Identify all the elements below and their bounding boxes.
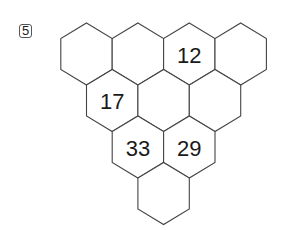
cell-value: 12 — [177, 43, 201, 68]
cell-value: 33 — [126, 136, 150, 161]
cell-value: 17 — [100, 89, 124, 114]
cell-value: 29 — [177, 136, 201, 161]
hexagon-pyramid: 12173329 — [0, 0, 283, 230]
